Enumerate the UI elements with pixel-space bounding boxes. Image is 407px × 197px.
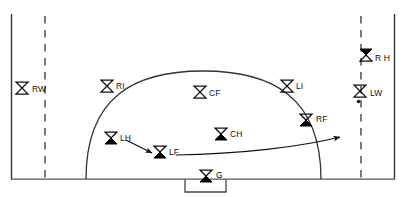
player-marker-lh[interactable]: [105, 132, 117, 144]
player-marker-rw[interactable]: [16, 82, 28, 94]
player-label-lh: LH: [120, 134, 131, 143]
player-label-rw: RW: [32, 85, 46, 94]
player-marker-li[interactable]: [281, 80, 293, 92]
player-marker-lw[interactable]: [354, 85, 366, 103]
player-label-rh: R H: [375, 54, 390, 63]
player-marker-ri[interactable]: [101, 80, 113, 92]
ball-dot: [357, 100, 360, 103]
player-marker-rh[interactable]: [360, 49, 372, 61]
player-marker-cf[interactable]: [194, 86, 206, 98]
player-label-ch: CH: [230, 130, 242, 139]
player-marker-ch[interactable]: [215, 128, 227, 140]
player-label-lf: LF: [169, 148, 179, 157]
player-marker-lf[interactable]: [154, 146, 166, 158]
player-label-cf: CF: [209, 89, 221, 98]
player-label-g: G: [216, 171, 223, 180]
player-marker-g[interactable]: [200, 170, 212, 182]
player-label-lw: LW: [370, 89, 382, 98]
player-label-li: LI: [296, 82, 303, 91]
run-arrow-lf-to-right: [176, 137, 340, 155]
formation-diagram: RW RI CF LI LW R H RF CH LH LF G: [0, 0, 407, 197]
player-label-rf: RF: [316, 115, 328, 124]
field-svg: [0, 0, 407, 197]
player-label-ri: RI: [116, 82, 125, 91]
